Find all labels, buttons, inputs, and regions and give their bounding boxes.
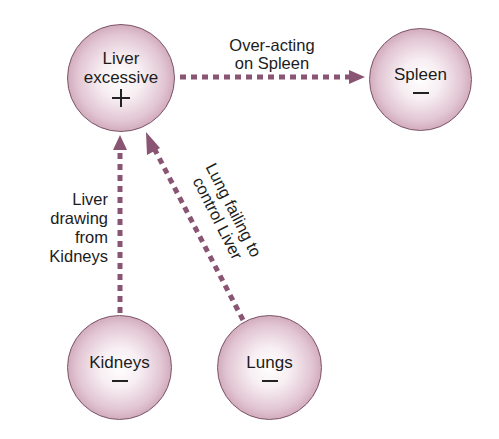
edge-label-liver-spleen: Over-acting on Spleen: [210, 36, 334, 72]
minus-icon: [112, 380, 128, 382]
arrow-liver-to-spleen: [180, 70, 365, 84]
plus-icon: [112, 89, 130, 107]
edge-label-line: on Spleen: [210, 54, 334, 72]
liver-label: Liver: [103, 49, 140, 68]
arrow-kidneys-to-liver: [113, 135, 127, 313]
node-spleen: Spleen: [369, 28, 472, 131]
edge-label-line: drawing: [30, 209, 108, 228]
edge-label-line: Over-acting: [210, 36, 334, 54]
edge-label-line: Kidneys: [30, 247, 108, 266]
diagram-canvas: Liver excessive Spleen Kidneys Lungs Ove…: [0, 0, 499, 439]
lungs-label: Lungs: [246, 353, 292, 372]
spleen-label: Spleen: [394, 65, 447, 84]
edge-label-line: from: [30, 228, 108, 247]
node-lungs: Lungs: [217, 315, 322, 420]
liver-label-state: excessive: [84, 68, 159, 87]
minus-icon: [413, 92, 429, 94]
node-liver: Liver excessive: [67, 24, 175, 132]
node-kidneys: Kidneys: [67, 315, 172, 420]
edge-label-kidneys-liver: Liver drawing from Kidneys: [30, 190, 108, 266]
kidneys-label: Kidneys: [89, 353, 149, 372]
edge-label-line: Liver: [30, 190, 108, 209]
minus-icon: [262, 380, 278, 382]
